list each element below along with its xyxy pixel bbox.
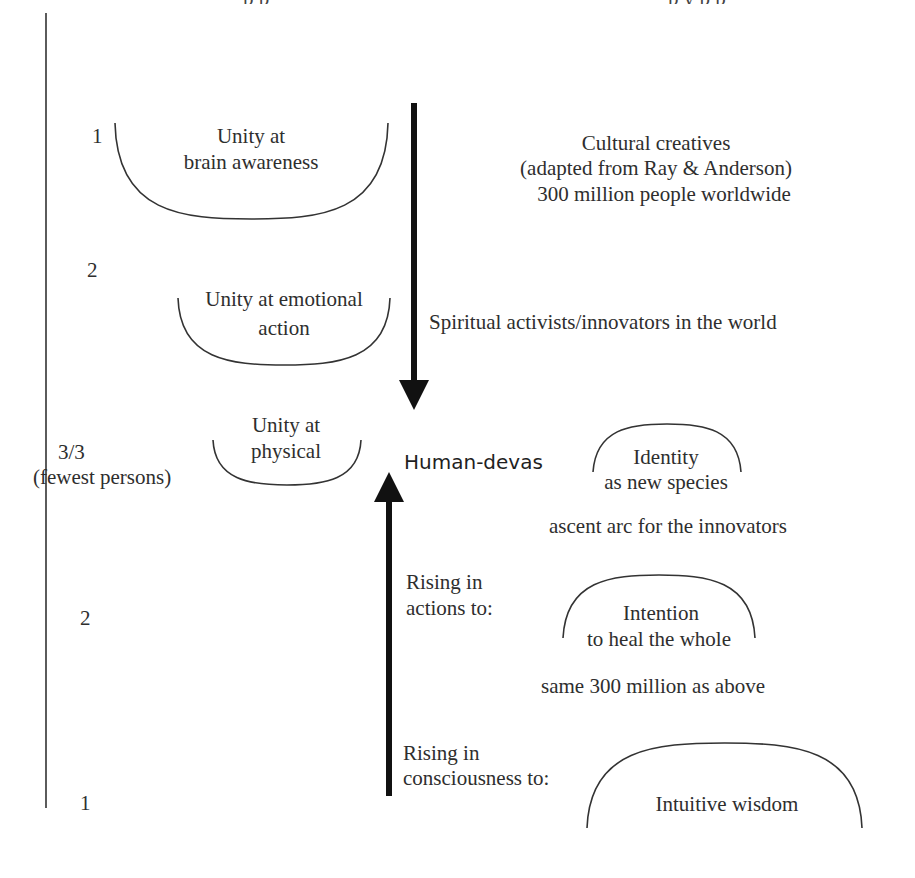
level-label-1-bottom: 1 (80, 791, 91, 816)
human-devas-label: Human-devas (404, 450, 543, 475)
down-arrow-icon (399, 380, 429, 410)
intuitive-wisdom-label: Intuitive wisdom (656, 792, 799, 817)
intention-line1: Intention (623, 601, 699, 626)
identity-line1: Identity (633, 445, 698, 470)
up-arrow-icon (374, 472, 404, 502)
emotional-action-line2: action (258, 316, 309, 341)
brain-awareness-line2: brain awareness (184, 150, 319, 175)
ascent-arc-label: ascent arc for the innovators (549, 514, 787, 539)
spiritual-activists-label: Spiritual activists/innovators in the wo… (429, 310, 777, 335)
level-label-1-top: 1 (92, 124, 103, 149)
rising-consciousness-line1: Rising in (403, 741, 479, 766)
same-300-million-label: same 300 million as above (541, 674, 765, 699)
cultural-creatives-source: (adapted from Ray & Anderson) (520, 156, 792, 181)
rising-actions-line2: actions to: (406, 596, 493, 621)
cultural-creatives-count: 300 million people worldwide (537, 182, 791, 207)
fewest-persons-note: (fewest persons) (33, 465, 171, 490)
ascent-arrow (374, 472, 404, 796)
physical-line1: Unity at (252, 413, 320, 438)
cultural-creatives-title: Cultural creatives (582, 131, 731, 156)
descent-arrow (399, 103, 429, 410)
rising-consciousness-line2: consciousness to: (403, 766, 549, 791)
brain-awareness-line1: Unity at (217, 124, 285, 149)
level-label-3-of-3: 3/3 (58, 440, 85, 465)
intention-line2: to heal the whole (587, 627, 731, 652)
rising-actions-line1: Rising in (406, 570, 482, 595)
level-label-2-top: 2 (87, 258, 98, 283)
level-label-2-bottom: 2 (80, 606, 91, 631)
emotional-action-line1: Unity at emotional (205, 287, 362, 312)
physical-line2: physical (251, 439, 321, 464)
identity-line2: as new species (604, 470, 728, 495)
